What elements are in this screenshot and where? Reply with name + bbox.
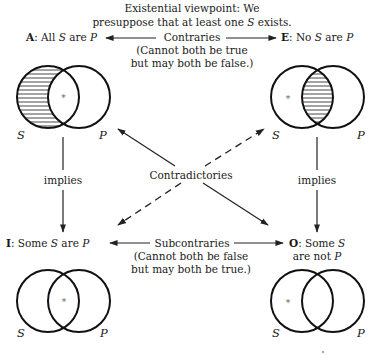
proposition-O-line-1: O: Some S [289,237,345,249]
header-line-1: Existential viewpoint: We [125,2,260,14]
viewpoint-header: Existential viewpoint: We presuppose tha… [92,2,291,28]
p-label: P [99,326,108,340]
contradictory-arrow-to-O [203,183,268,225]
square-of-opposition-diagram: Existential viewpoint: We presuppose tha… [0,0,385,355]
proposition-I: I: Some S are P [6,237,90,249]
p-label: P [356,128,365,142]
contradictory-dashed-arrow-to-I [118,183,181,225]
stray-dot [322,351,324,353]
venn-diagram-A: * S P [10,60,110,142]
s-label: S [17,128,25,142]
s-label: S [17,326,25,340]
subcontraries-label: Subcontraries [154,237,229,249]
s-label: S [272,128,280,142]
contraries-note-2: but may both be false.) [131,57,254,69]
p-label: P [356,326,365,340]
proposition-A: A: All S are P [25,31,98,43]
s-label: S [272,326,280,340]
implies-right-label: implies [298,174,336,186]
existence-mark: * [62,297,67,307]
contradictory-arrow-O-to-A [118,129,175,166]
p-label: P [98,128,107,142]
venn-diagram-I: * S P [17,270,110,340]
implies-left-label: implies [44,174,82,186]
contraries-note-1: (Cannot both be true [136,44,248,56]
contradictory-dashed-arrow-to-E [205,129,264,166]
venn-diagram-E: * S P [271,66,365,142]
proposition-O-line-2: are not P [293,250,342,262]
contradictories-label: Contradictories [149,169,232,181]
existence-mark: * [61,93,66,103]
existence-mark: * [286,94,291,104]
subcontraries-note-2: but may both be true.) [131,263,251,275]
contraries-label: Contraries [164,31,221,43]
venn-diagram-O: * S P [271,270,365,340]
existence-mark: * [286,298,291,308]
proposition-E: E: No S are P [281,31,354,43]
header-line-2: presuppose that at least one S exists. [92,16,291,28]
subcontraries-note-1: (Cannot both be false [134,250,249,262]
